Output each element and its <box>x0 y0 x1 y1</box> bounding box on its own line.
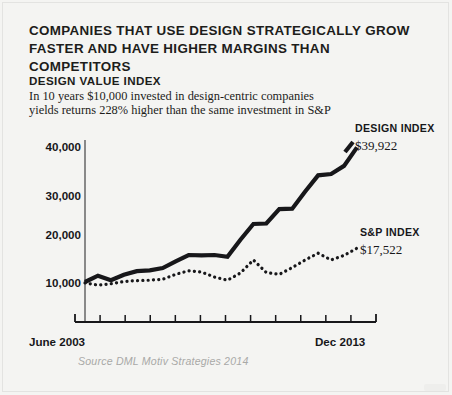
sp-index-line <box>85 248 357 285</box>
design-index-line <box>85 147 357 282</box>
y-tick-label-40000: 40,000 <box>23 140 81 153</box>
sp-index-series-label: S&P INDEX <box>360 226 420 238</box>
sp-index-series-value: $17,522 <box>360 242 402 258</box>
design-index-series-value: $39,922 <box>355 138 397 154</box>
design-index-series-label: DESIGN INDEX <box>355 122 435 134</box>
x-tick-label-end: Dec 2013 <box>315 335 365 348</box>
corner-artifact <box>424 384 446 391</box>
infographic-page: COMPANIES THAT USE DESIGN STRATEGICALLY … <box>0 0 452 395</box>
y-tick-label-30000: 30,000 <box>23 189 81 202</box>
x-tick-label-start: June 2003 <box>29 335 85 348</box>
design-index-leader <box>345 142 353 152</box>
y-tick-label-20000: 20,000 <box>23 228 81 241</box>
design-value-index-chart: 40,000 30,000 20,000 10,000 June 2003 De… <box>0 0 452 395</box>
y-tick-label-10000: 10,000 <box>23 276 81 289</box>
source-note: Source DML Motiv Strategies 2014 <box>78 355 249 367</box>
